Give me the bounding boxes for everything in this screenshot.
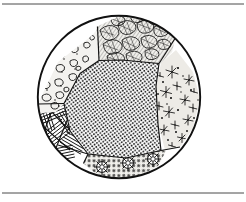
figure-root: Textured circular diagram	[0, 0, 246, 202]
figure-canvas: Textured circular diagram	[0, 0, 246, 202]
specimen-circle	[30, 10, 210, 186]
